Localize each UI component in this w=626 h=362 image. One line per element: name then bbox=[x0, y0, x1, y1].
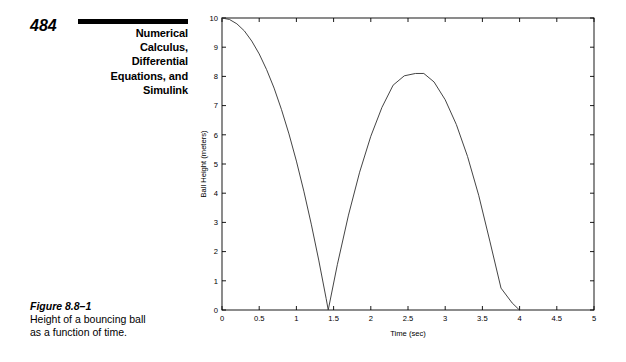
chapter-title-line: Simulink bbox=[58, 83, 188, 97]
x-tick-label: 2 bbox=[369, 314, 373, 323]
y-tick-label: 0 bbox=[214, 306, 218, 315]
y-tick-label: 7 bbox=[214, 101, 218, 110]
chapter-title: Numerical Calculus, Differential Equatio… bbox=[58, 26, 188, 97]
chapter-title-line: Numerical bbox=[58, 26, 188, 40]
figure-caption-text: Height of a bouncing ball as a function … bbox=[30, 313, 200, 339]
y-tick-label: 9 bbox=[214, 43, 218, 52]
y-tick-label: 2 bbox=[214, 247, 218, 256]
figure-caption-line: as a function of time. bbox=[30, 326, 200, 339]
x-axis-tick-labels: 00.511.522.533.544.55 bbox=[220, 314, 596, 323]
y-tick-label: 4 bbox=[214, 189, 218, 198]
x-tick-label: 0 bbox=[220, 314, 224, 323]
header-rule bbox=[78, 19, 188, 24]
x-tick-label: 5 bbox=[592, 314, 596, 323]
x-tick-label: 4.5 bbox=[552, 314, 563, 323]
textbook-page: 484 Numerical Calculus, Differential Equ… bbox=[0, 0, 626, 362]
figure-label: Figure 8.8–1 bbox=[30, 300, 200, 312]
x-axis-label: Time (sec) bbox=[390, 329, 426, 338]
y-tick-label: 10 bbox=[210, 14, 218, 23]
plot-frame bbox=[222, 18, 594, 310]
y-axis-tick-labels: 012345678910 bbox=[210, 14, 218, 315]
y-tick-label: 6 bbox=[214, 131, 218, 140]
page-number: 484 bbox=[30, 17, 57, 35]
x-axis-ticks bbox=[222, 18, 594, 310]
x-tick-label: 1 bbox=[294, 314, 298, 323]
chart-svg: 00.511.522.533.544.55 012345678910 Time … bbox=[196, 0, 626, 362]
y-tick-label: 5 bbox=[214, 160, 218, 169]
y-tick-label: 3 bbox=[214, 218, 218, 227]
x-tick-label: 4 bbox=[517, 314, 521, 323]
x-tick-label: 0.5 bbox=[254, 314, 265, 323]
y-axis-label: Ball Height (meters) bbox=[199, 130, 208, 198]
figure-caption: Figure 8.8–1 Height of a bouncing ball a… bbox=[30, 300, 200, 339]
x-tick-label: 3 bbox=[443, 314, 447, 323]
y-tick-label: 1 bbox=[214, 277, 218, 286]
chapter-title-line: Differential bbox=[58, 54, 188, 68]
y-tick-label: 8 bbox=[214, 72, 218, 81]
bouncing-ball-chart: 00.511.522.533.544.55 012345678910 Time … bbox=[196, 0, 626, 362]
ball-height-curve bbox=[222, 18, 519, 310]
x-tick-label: 2.5 bbox=[403, 314, 414, 323]
chapter-title-line: Equations, and bbox=[58, 69, 188, 83]
x-tick-label: 3.5 bbox=[477, 314, 488, 323]
figure-caption-line: Height of a bouncing ball bbox=[30, 313, 200, 326]
y-axis-ticks bbox=[222, 18, 594, 310]
chapter-title-line: Calculus, bbox=[58, 40, 188, 54]
x-tick-label: 1.5 bbox=[328, 314, 339, 323]
